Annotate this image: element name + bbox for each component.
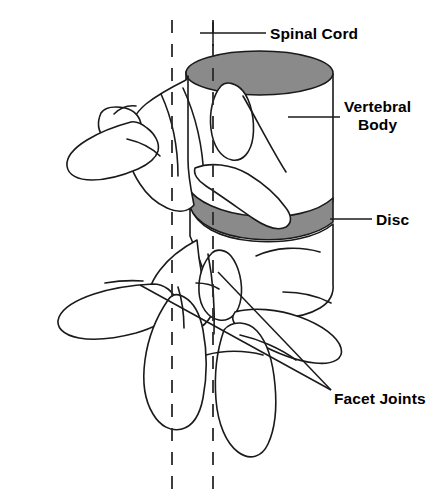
label-facet-joints: Facet Joints	[334, 390, 426, 407]
lower-tp-upper-edge	[105, 281, 143, 283]
label-spinal-cord: Spinal Cord	[270, 25, 358, 42]
anatomy-diagram: Spinal Cord Vertebral Body Disc Facet Jo…	[0, 0, 445, 500]
anatomy-illustration: Spinal Cord Vertebral Body Disc Facet Jo…	[0, 0, 445, 500]
label-vertebral-body-line2: Body	[358, 116, 397, 133]
label-vertebral-body-line1: Vertebral	[344, 98, 411, 115]
lower-superior-articular-process	[199, 250, 242, 320]
superior-endplate-shaded	[186, 51, 333, 95]
label-disc: Disc	[376, 211, 409, 228]
